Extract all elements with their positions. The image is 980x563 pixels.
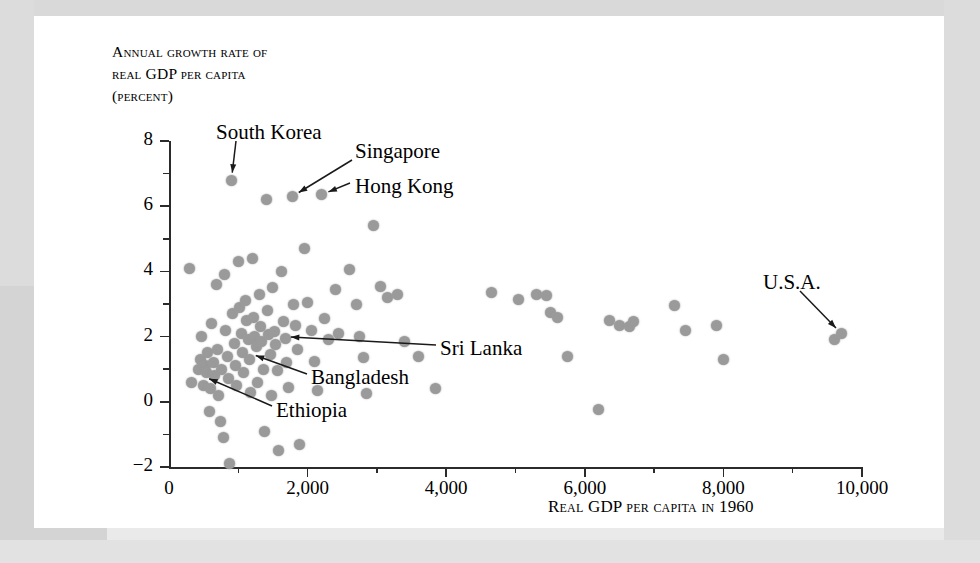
data-point <box>593 404 604 415</box>
data-point <box>261 194 272 205</box>
x-tick-label: 10,000 <box>817 477 907 499</box>
data-point <box>344 264 355 275</box>
data-point <box>215 416 226 427</box>
x-tick-major <box>723 467 725 477</box>
x-tick-minor <box>376 467 378 473</box>
data-point <box>718 354 729 365</box>
data-point <box>184 263 195 274</box>
y-tick-major <box>160 205 169 207</box>
data-point <box>229 338 240 349</box>
data-point <box>226 175 237 186</box>
data-point <box>836 328 847 339</box>
x-tick-major <box>584 467 586 477</box>
data-point <box>258 364 269 375</box>
y-tick-major <box>160 336 169 338</box>
data-point <box>231 380 242 391</box>
y-tick-minor <box>163 368 169 370</box>
data-point <box>361 388 372 399</box>
x-tick-label: 8,000 <box>678 477 768 499</box>
data-point <box>358 352 369 363</box>
leader-south-korea <box>230 141 236 173</box>
x-tick-label: 4,000 <box>401 477 491 499</box>
figure-page: 0 Annual growth rate of real GDP per cap… <box>0 0 980 563</box>
data-point <box>628 316 639 327</box>
data-point <box>288 299 299 310</box>
x-tick-label: 2,000 <box>263 477 353 499</box>
annotation-label: Bangladesh <box>311 367 409 388</box>
x-tick-label: 6,000 <box>540 477 630 499</box>
data-point <box>265 349 276 360</box>
y-axis-line <box>169 141 171 468</box>
data-point <box>292 344 303 355</box>
y-tick-minor <box>163 303 169 305</box>
data-point <box>240 295 251 306</box>
y-tick-label: 4 <box>113 258 153 280</box>
x-tick-major <box>445 467 447 477</box>
data-point <box>212 344 223 355</box>
annotation-label: Sri Lanka <box>440 338 522 359</box>
data-point <box>333 328 344 339</box>
data-point <box>267 282 278 293</box>
data-point <box>219 269 230 280</box>
data-point <box>220 325 231 336</box>
data-point <box>302 297 313 308</box>
scatter-chart: Annual growth rate of real GDP per capit… <box>0 0 980 563</box>
data-point <box>486 287 497 298</box>
data-point <box>513 294 524 305</box>
leader-u-s-a- <box>800 291 836 328</box>
data-point <box>604 315 615 326</box>
annotation-label: Ethiopia <box>276 400 347 421</box>
data-point <box>278 316 289 327</box>
data-point <box>281 357 292 368</box>
y-axis-title-line-3: (percent) <box>112 86 173 106</box>
data-point <box>552 312 563 323</box>
y-axis-title-line-1: Annual growth rate of <box>112 42 267 62</box>
x-tick-minor <box>238 467 240 473</box>
data-point <box>287 191 298 202</box>
data-point <box>218 432 229 443</box>
data-point <box>259 426 270 437</box>
y-axis-title-line-2: real GDP per capita <box>112 64 246 84</box>
data-point <box>531 289 542 300</box>
data-point <box>196 331 207 342</box>
data-point <box>368 220 379 231</box>
data-point <box>319 313 330 324</box>
data-point <box>430 383 441 394</box>
data-point <box>323 334 334 345</box>
data-point <box>306 325 317 336</box>
data-point <box>294 439 305 450</box>
data-point <box>541 290 552 301</box>
y-tick-minor <box>163 434 169 436</box>
x-tick-minor <box>653 467 655 473</box>
data-point <box>399 336 410 347</box>
data-point <box>280 333 291 344</box>
data-point <box>204 406 215 417</box>
y-tick-major <box>160 401 169 403</box>
y-tick-label: 2 <box>113 324 153 346</box>
data-point <box>245 387 256 398</box>
data-point <box>206 318 217 329</box>
y-tick-major <box>160 140 169 142</box>
data-point <box>614 320 625 331</box>
data-point <box>330 284 341 295</box>
x-tick-major <box>307 467 309 477</box>
annotation-label: South Korea <box>216 122 322 143</box>
data-point <box>562 351 573 362</box>
data-point <box>413 351 424 362</box>
y-tick-label: 8 <box>113 128 153 150</box>
data-point <box>382 292 393 303</box>
data-point <box>316 189 327 200</box>
data-point <box>213 390 224 401</box>
data-point <box>233 256 244 267</box>
data-point <box>254 289 265 300</box>
annotation-label: Singapore <box>355 141 440 162</box>
data-point <box>711 320 722 331</box>
data-point <box>299 243 310 254</box>
data-point <box>680 325 691 336</box>
data-point <box>669 300 680 311</box>
y-tick-label: −2 <box>113 454 153 476</box>
data-point <box>272 365 283 376</box>
data-point <box>290 320 301 331</box>
data-point <box>262 305 273 316</box>
data-point <box>354 331 365 342</box>
